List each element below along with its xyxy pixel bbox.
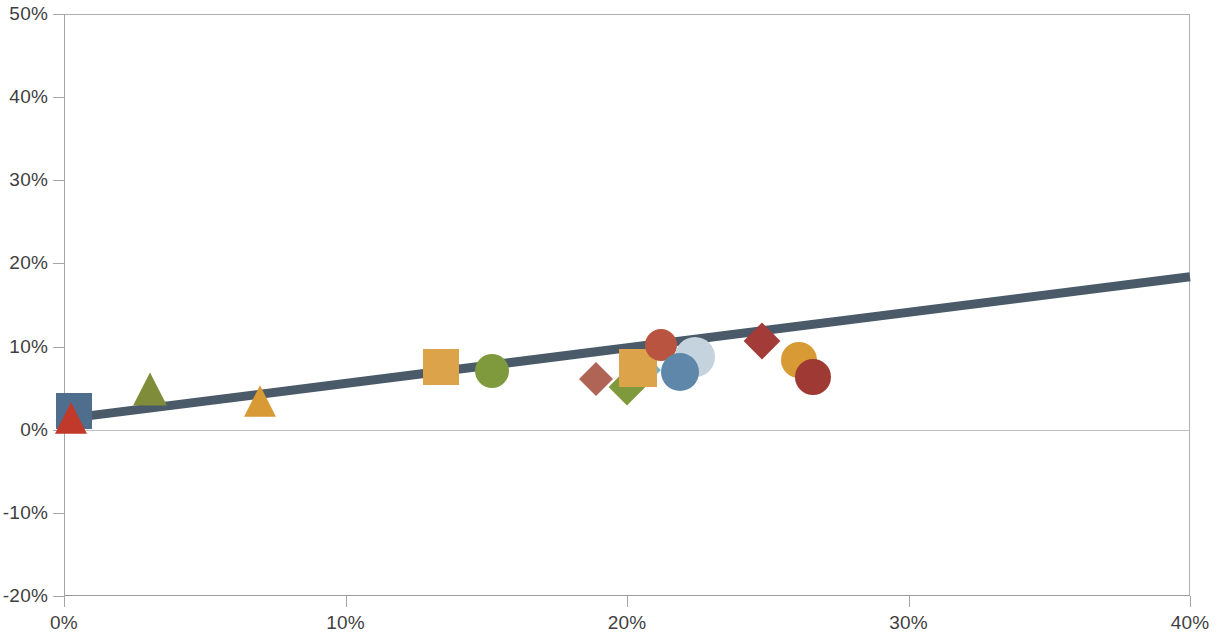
- y-axis-tick-label: -10%: [3, 503, 48, 522]
- x-axis-tick: [346, 596, 347, 607]
- data-point-triangle[interactable]: [243, 384, 277, 418]
- scatter-chart: -20%-10%0%10%20%30%40%50% 0%10%20%30%40%: [0, 0, 1220, 639]
- y-axis-tick: [53, 596, 64, 597]
- y-axis-tick: [53, 263, 64, 264]
- y-axis-tick-label: 20%: [9, 253, 48, 272]
- zero-reference-line: [64, 430, 1190, 431]
- data-point-triangle[interactable]: [54, 401, 88, 435]
- x-axis-tick: [627, 596, 628, 607]
- x-axis-tick-label: 10%: [326, 613, 365, 632]
- y-axis-tick-label: 40%: [9, 87, 48, 106]
- y-axis-tick-label: 30%: [9, 170, 48, 189]
- y-axis-tick-label: 10%: [9, 337, 48, 356]
- x-axis-tick-label: 40%: [1171, 613, 1210, 632]
- plot-frame-top: [64, 14, 1190, 15]
- y-axis-tick: [53, 347, 64, 348]
- y-axis-tick-label: -20%: [3, 586, 48, 605]
- plot-area: [64, 14, 1190, 596]
- y-axis-tick: [53, 14, 64, 15]
- data-point-triangle[interactable]: [132, 371, 168, 407]
- x-axis-tick: [909, 596, 910, 607]
- y-axis-line: [64, 14, 65, 596]
- x-axis-tick: [64, 596, 65, 607]
- y-axis-tick: [53, 180, 64, 181]
- y-axis-tick: [53, 513, 64, 514]
- x-axis-tick-label: 30%: [889, 613, 928, 632]
- x-axis-tick-label: 20%: [608, 613, 647, 632]
- data-point-circle[interactable]: [475, 354, 509, 388]
- data-point-circle[interactable]: [661, 353, 699, 391]
- plot-frame-right: [1189, 14, 1190, 596]
- x-axis-tick-label: 0%: [50, 613, 78, 632]
- y-axis-tick-label: 0%: [20, 420, 48, 439]
- y-axis-tick-label: 50%: [9, 4, 48, 23]
- triangle-glyph: [55, 402, 87, 433]
- triangle-glyph: [133, 372, 167, 405]
- y-axis-tick: [53, 97, 64, 98]
- data-point-circle[interactable]: [795, 359, 831, 395]
- triangle-glyph: [244, 385, 276, 416]
- data-point-square[interactable]: [423, 349, 459, 385]
- x-axis-tick: [1190, 596, 1191, 607]
